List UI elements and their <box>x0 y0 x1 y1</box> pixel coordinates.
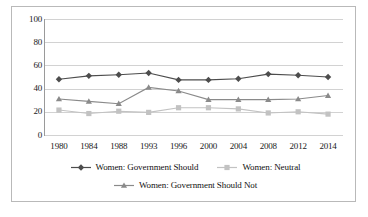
legend-item[interactable]: Women: Government Should Not <box>113 180 257 191</box>
data-point-marker <box>206 105 211 110</box>
chart-series-layer <box>44 19 343 135</box>
x-axis-tick-label: 1980 <box>50 141 67 151</box>
legend-item-label: Women: Government Should Not <box>139 180 257 191</box>
x-axis-tick-label: 1984 <box>80 141 97 151</box>
y-axis-tick-label: 80 <box>16 38 42 47</box>
x-axis-tick-label: 2008 <box>260 141 277 151</box>
legend-marker-triangle-icon <box>113 180 135 191</box>
data-point-marker <box>265 71 271 77</box>
data-point-marker <box>325 74 331 80</box>
legend-row-secondary: Women: Government Should Not <box>34 177 336 194</box>
data-point-marker <box>235 76 241 82</box>
data-point-marker <box>266 110 271 115</box>
x-axis-tick-label: 2000 <box>200 141 217 151</box>
data-point-marker <box>145 70 151 76</box>
y-axis-tick-label: 60 <box>16 61 42 70</box>
data-point-marker <box>295 72 301 78</box>
data-point-marker <box>116 109 121 114</box>
x-axis-tick-label: 2012 <box>290 141 307 151</box>
legend-marker-square-icon <box>216 162 238 173</box>
y-axis-tick-label: 100 <box>16 15 42 24</box>
x-axis-tick-label: 2014 <box>319 141 336 151</box>
data-point-marker <box>236 106 241 111</box>
y-axis-tick-labels: 020406080100 <box>12 19 42 135</box>
series-line <box>59 87 328 103</box>
y-axis-tick-label: 0 <box>16 131 42 140</box>
data-point-marker <box>56 107 61 112</box>
legend-marker-diamond-icon <box>70 162 92 173</box>
series-line <box>59 108 328 114</box>
data-point-marker <box>86 73 92 79</box>
legend-item[interactable]: Women: Government Should <box>70 162 199 173</box>
x-axis-tick-label: 1996 <box>170 141 187 151</box>
data-point-marker <box>175 77 181 83</box>
series-square <box>56 105 330 117</box>
legend-item-label: Women: Neutral <box>242 162 300 173</box>
data-point-marker <box>56 76 62 82</box>
x-axis-tick-label: 1988 <box>110 141 127 151</box>
data-point-marker <box>176 105 181 110</box>
legend-item-label: Women: Government Should <box>96 162 199 173</box>
x-axis-tick-labels: 1980198419881993199620002004200820122014 <box>44 141 343 155</box>
series-diamond <box>56 70 332 83</box>
data-point-marker <box>146 110 151 115</box>
data-point-marker <box>146 84 152 89</box>
data-point-marker <box>296 109 301 114</box>
x-axis-tick-label: 1993 <box>140 141 157 151</box>
series-line <box>59 73 328 80</box>
data-point-marker <box>116 71 122 77</box>
legend-row-primary: Women: Government ShouldWomen: Neutral <box>34 159 336 176</box>
data-point-marker <box>325 112 330 117</box>
y-axis-tick-label: 20 <box>16 107 42 116</box>
legend-item[interactable]: Women: Neutral <box>216 162 300 173</box>
data-point-marker <box>205 77 211 83</box>
y-axis-tick-label: 40 <box>16 84 42 93</box>
chart-legend: Women: Government ShouldWomen: Neutral W… <box>34 159 336 199</box>
series-triangle <box>56 84 331 106</box>
data-point-marker <box>86 111 91 116</box>
data-point-marker <box>56 96 62 101</box>
x-axis-tick-label: 2004 <box>230 141 247 151</box>
chart-plot-wrapper: 020406080100 198019841988199319962000200… <box>12 7 357 203</box>
chart-frame: 020406080100 198019841988199319962000200… <box>11 6 356 202</box>
data-point-marker <box>325 92 331 97</box>
gridline <box>44 135 343 136</box>
